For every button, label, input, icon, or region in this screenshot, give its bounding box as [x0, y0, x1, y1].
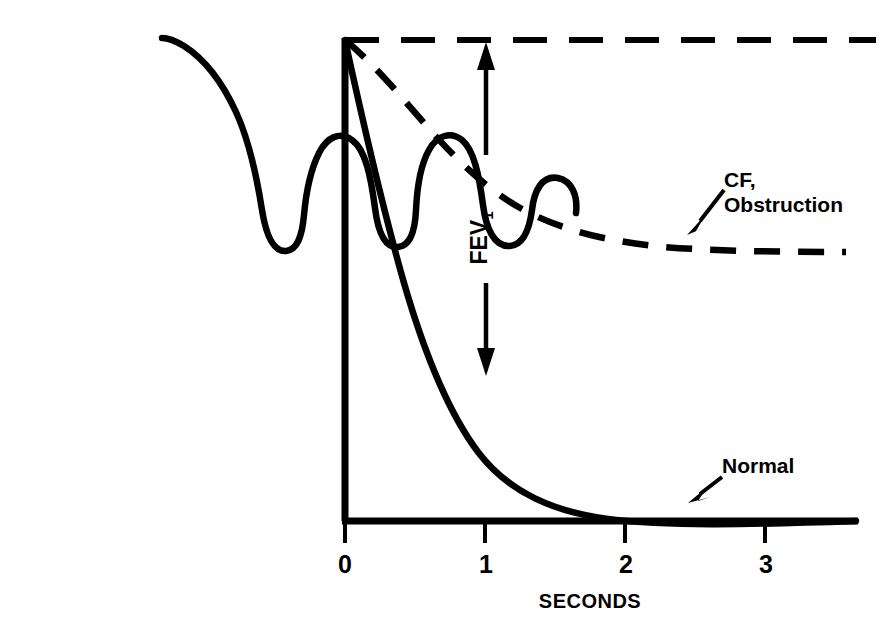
spirogram-canvas: FEV1 CF, Obstruction Normal 0 1 2 3 SECO… [0, 0, 889, 636]
fev1-label-group: FEV1 [466, 211, 496, 264]
cf-obstruction-annotation: CF, Obstruction [687, 168, 843, 235]
fev1-label: FEV1 [466, 211, 496, 264]
fev1-arrow-upper-head [477, 42, 495, 70]
cf-obstruction-curve [345, 40, 846, 252]
x-tick-label-2: 2 [619, 550, 633, 578]
x-tick-label-3: 3 [759, 550, 773, 578]
normal-annotation: Normal [688, 454, 794, 503]
fev1-label-main: FEV [466, 219, 492, 264]
x-tick-label-0: 0 [338, 550, 352, 578]
cf-obstruction-label-line2: Obstruction [724, 193, 843, 216]
normal-label: Normal [722, 454, 794, 477]
cf-obstruction-leader-line [700, 190, 724, 221]
cf-obstruction-label-line1: CF, [724, 168, 756, 191]
fev1-arrow-lower-head [477, 348, 495, 376]
x-tick-label-1: 1 [479, 550, 493, 578]
normal-curve [345, 40, 856, 524]
spirogram-figure: FEV1 CF, Obstruction Normal 0 1 2 3 SECO… [0, 0, 889, 636]
fev1-label-subscript: 1 [479, 211, 496, 219]
x-axis-title: SECONDS [539, 590, 641, 612]
